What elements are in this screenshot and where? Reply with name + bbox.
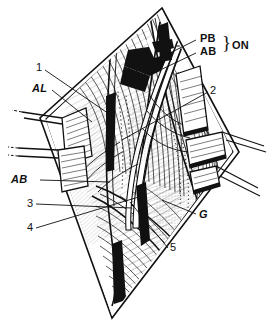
brace-glyph: } bbox=[222, 33, 231, 52]
callout-label-ab-left: AB bbox=[11, 174, 28, 185]
figure-canvas: 1 AL PB AB } ON 2 AB 3 4 G 5 bbox=[0, 0, 276, 323]
callout-label-5: 5 bbox=[170, 242, 176, 253]
callout-label-ab-top: AB bbox=[200, 46, 216, 57]
callout-label-al: AL bbox=[32, 83, 47, 94]
callout-label-on: ON bbox=[232, 40, 249, 51]
callout-label-1: 1 bbox=[36, 62, 42, 73]
callout-label-g: G bbox=[199, 209, 208, 220]
callout-label-2: 2 bbox=[210, 85, 216, 96]
callout-label-4: 4 bbox=[27, 222, 33, 233]
callout-label-pb: PB bbox=[200, 33, 216, 44]
callout-label-3: 3 bbox=[27, 198, 33, 209]
